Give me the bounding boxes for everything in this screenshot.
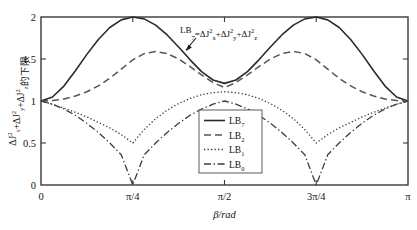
figure-container: 0π/4π/23π/4π00.511.52ΔJ2x+ΔJ2y+ΔJ2z的下限β/… [0, 0, 417, 230]
y-tick-label: 1 [31, 96, 36, 107]
x-tick-label: π/4 [126, 191, 140, 202]
legend: LB7LB2LB1LB0 [199, 110, 262, 173]
y-tick-label: 0 [31, 180, 36, 191]
y-tick-label: 0.5 [23, 138, 36, 149]
x-tick-label: 3π/4 [307, 191, 326, 202]
x-tick-label: π [405, 191, 411, 202]
x-tick-label: π/2 [218, 191, 231, 202]
series-curve-LB2 [41, 51, 408, 101]
y-axis-title: ΔJ2x+ΔJ2y+ΔJ2z的下限 [6, 56, 30, 145]
x-tick-label: 0 [38, 191, 43, 202]
y-tick-label: 2 [31, 12, 36, 23]
line-chart: 0π/4π/23π/4π00.511.52ΔJ2x+ΔJ2y+ΔJ2z的下限β/… [0, 0, 417, 230]
annotation-arrow-head [186, 45, 192, 51]
annotation-label: LB7=ΔJ2x+ΔJ2y+ΔJ2z [180, 25, 257, 41]
y-axis-title-text: ΔJ2x+ΔJ2y+ΔJ2z的下限 [6, 56, 30, 145]
x-axis-title: β/rad [212, 209, 236, 220]
